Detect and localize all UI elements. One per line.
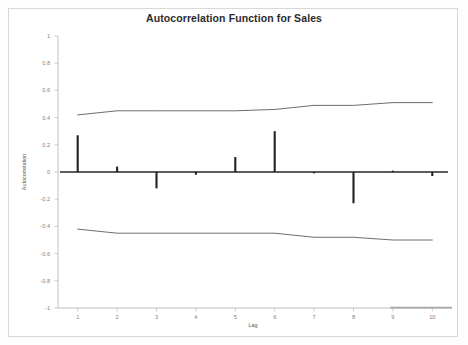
y-tick-label: 0.6	[42, 87, 50, 93]
x-tick-label: 3	[155, 314, 158, 320]
y-tick-label: 0.2	[42, 142, 50, 148]
acf-spikes-group	[78, 131, 433, 203]
y-tick-label: 0	[47, 169, 50, 175]
y-tick-label: -0.2	[40, 196, 50, 202]
x-tick-label: 2	[116, 314, 119, 320]
x-tick-label: 5	[234, 314, 237, 320]
y-tick-label: 1	[47, 33, 50, 39]
x-tick-label: 4	[194, 314, 197, 320]
upper-confidence-band	[78, 103, 433, 115]
page-background: Autocorrelation Function for Sales Autoc…	[0, 0, 468, 345]
x-tick-label: 7	[313, 314, 316, 320]
y-tick-label: -1	[45, 305, 50, 311]
x-tick-label: 1	[76, 314, 79, 320]
y-axis-ticks: 10.80.60.40.20-0.2-0.4-0.6-0.8-1	[40, 33, 58, 311]
acf-chart-figure: Autocorrelation Function for Sales Autoc…	[0, 0, 468, 345]
x-tick-label: 8	[352, 314, 355, 320]
y-tick-label: -0.4	[40, 223, 50, 229]
y-tick-label: 0.4	[42, 115, 50, 121]
lower-confidence-band	[78, 229, 433, 240]
chart-title: Autocorrelation Function for Sales	[146, 12, 322, 24]
acf-chart-svg: Autocorrelation Function for Sales Autoc…	[0, 0, 468, 345]
x-axis-ticks: 12345678910	[76, 308, 435, 320]
x-tick-label: 9	[391, 314, 394, 320]
x-axis-title: Lag	[249, 322, 258, 328]
y-axis-title: Autocorrelation	[21, 154, 27, 190]
x-tick-label: 10	[429, 314, 435, 320]
y-tick-label: -0.8	[40, 278, 50, 284]
x-tick-label: 6	[273, 314, 276, 320]
y-tick-label: 0.8	[42, 60, 50, 66]
y-tick-label: -0.6	[40, 251, 50, 257]
